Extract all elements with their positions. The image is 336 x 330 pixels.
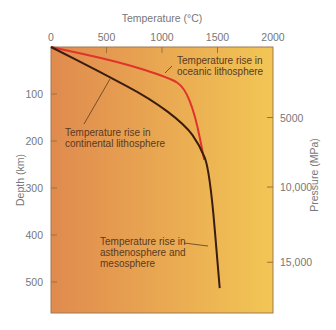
x-tick-label: 0 [48, 31, 54, 43]
y-tick-label: 200 [25, 135, 43, 147]
x-tick-label: 1500 [206, 31, 230, 43]
svg-text:Temperature rise in: Temperature rise in [177, 55, 263, 66]
plot-area [51, 47, 273, 313]
x-tick-label: 1000 [150, 31, 174, 43]
x-tick-label: 2000 [261, 31, 285, 43]
y-axis-label: Depth (km) [14, 154, 26, 206]
y-tick-label: 300 [25, 182, 43, 194]
svg-text:mesosphere: mesosphere [100, 258, 155, 269]
annotation-oceanic: Temperature rise in oceanic lithosphere [165, 55, 264, 77]
y-tick-label: 400 [25, 229, 43, 241]
x-tick-label: 500 [98, 31, 116, 43]
geotherm-chart: 0500100015002000 100200300400500 500010,… [0, 0, 336, 330]
y2-axis-label: Pressure (MPa) [308, 138, 320, 212]
x-axis-label: Temperature (°C) [122, 12, 203, 24]
svg-text:continental lithosphere: continental lithosphere [65, 138, 166, 149]
y2-tick-label: 15,000 [280, 256, 312, 268]
y-tick-label: 500 [25, 276, 43, 288]
y-tick-label: 100 [25, 88, 43, 100]
svg-text:asthenosphere and: asthenosphere and [100, 247, 186, 258]
svg-text:oceanic lithosphere: oceanic lithosphere [177, 66, 264, 77]
y2-axis: 500010,00015,000 [267, 112, 312, 269]
y2-tick-label: 5000 [280, 112, 304, 124]
svg-text:Temperature rise in: Temperature rise in [100, 236, 186, 247]
svg-text:Temperature rise in: Temperature rise in [65, 127, 151, 138]
